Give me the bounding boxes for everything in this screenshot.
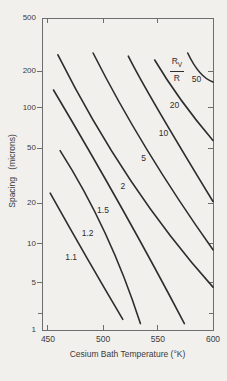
contour-label-5: 5 [131, 153, 157, 164]
x-tick-label: 600 [198, 334, 227, 344]
x-tick-label: 500 [88, 334, 118, 344]
y-tick-label: 1 [8, 325, 36, 335]
contour-label-1.5: 1.5 [90, 205, 116, 216]
y-tick-label: 200 [8, 66, 36, 76]
plot-border [42, 18, 213, 330]
legend-numerator: RV [170, 56, 184, 72]
figure: Spacing (microns) Cesium Bath Temperatur… [0, 0, 227, 381]
contour-label-10: 10 [150, 128, 176, 139]
y-tick-label: 100 [8, 103, 36, 113]
y-axis-title: Spacing (microns) [7, 101, 17, 241]
y-tick-label: 50 [8, 143, 36, 153]
y-tick-label: 500 [8, 13, 36, 23]
x-tick-label: 550 [143, 334, 173, 344]
y-tick-label: 5 [8, 278, 36, 288]
y-tick-label: 10 [8, 239, 36, 249]
contour-curve-1.5 [54, 90, 185, 324]
x-tick-label: 450 [33, 334, 63, 344]
x-axis-title: Cesium Bath Temperature (°K) [40, 349, 215, 359]
contour-label-20: 20 [161, 100, 187, 111]
contour-label-1.1: 1.1 [58, 252, 84, 263]
contour-label-1.2: 1.2 [75, 228, 101, 239]
contour-label-50: 50 [183, 74, 209, 85]
contour-label-2: 2 [110, 181, 136, 192]
y-tick-label: 20 [8, 198, 36, 208]
